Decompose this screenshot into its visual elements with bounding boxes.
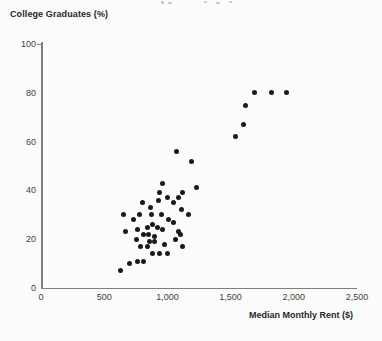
data-point <box>241 122 246 127</box>
data-point <box>152 239 157 244</box>
data-point <box>179 207 184 212</box>
data-point <box>137 212 142 217</box>
data-point <box>194 185 199 190</box>
data-point <box>252 90 257 95</box>
data-point <box>160 227 165 232</box>
data-point <box>162 242 167 247</box>
x-axis-line <box>41 288 357 290</box>
y-axis-line <box>41 42 43 289</box>
data-point <box>135 259 140 264</box>
data-point <box>233 134 238 139</box>
data-point <box>140 200 145 205</box>
data-point <box>160 181 165 186</box>
data-point <box>146 232 151 237</box>
y-tick-label: 60 <box>26 137 36 147</box>
data-point <box>186 212 191 217</box>
data-point <box>157 251 162 256</box>
data-point <box>118 268 123 273</box>
y-tick-label: 80 <box>26 88 36 98</box>
x-tick-label: 0 <box>38 292 43 302</box>
x-tick-label: 2,500 <box>346 292 369 302</box>
data-point <box>165 195 170 200</box>
y-tick-label: 40 <box>26 185 36 195</box>
y-tick-label: 0 <box>31 283 36 293</box>
data-point <box>149 212 154 217</box>
data-point <box>180 190 185 195</box>
data-point <box>131 217 136 222</box>
x-tick-label: 1,500 <box>219 292 242 302</box>
data-point <box>127 261 132 266</box>
data-point <box>134 237 139 242</box>
data-point <box>156 198 161 203</box>
data-point <box>189 159 194 164</box>
y-tick-label: 20 <box>26 234 36 244</box>
data-point <box>173 237 178 242</box>
data-point <box>174 149 179 154</box>
y-axis-title: College Graduates (%) <box>10 9 108 19</box>
data-point <box>165 251 170 256</box>
scatter-chart: College Graduates (%) Median Monthly Ren… <box>0 0 382 341</box>
data-point <box>138 244 143 249</box>
y-axis-top-tick <box>37 44 42 46</box>
data-point <box>145 244 150 249</box>
data-point <box>150 251 155 256</box>
data-point <box>135 227 140 232</box>
data-point <box>178 232 183 237</box>
data-point <box>123 229 128 234</box>
data-point <box>157 190 162 195</box>
data-point <box>148 205 153 210</box>
data-point <box>176 195 181 200</box>
data-point <box>171 200 176 205</box>
data-point <box>171 220 176 225</box>
data-point <box>180 244 185 249</box>
x-tick-label: 1,000 <box>156 292 179 302</box>
x-tick-label: 500 <box>97 292 112 302</box>
data-point <box>243 103 248 108</box>
data-point <box>159 212 164 217</box>
data-point <box>141 259 146 264</box>
y-tick-label: 100 <box>21 39 36 49</box>
x-axis-title: Median Monthly Rent ($) <box>230 310 372 320</box>
data-point <box>284 90 289 95</box>
data-point <box>269 90 274 95</box>
x-tick-label: 2,000 <box>283 292 306 302</box>
data-point <box>121 212 126 217</box>
